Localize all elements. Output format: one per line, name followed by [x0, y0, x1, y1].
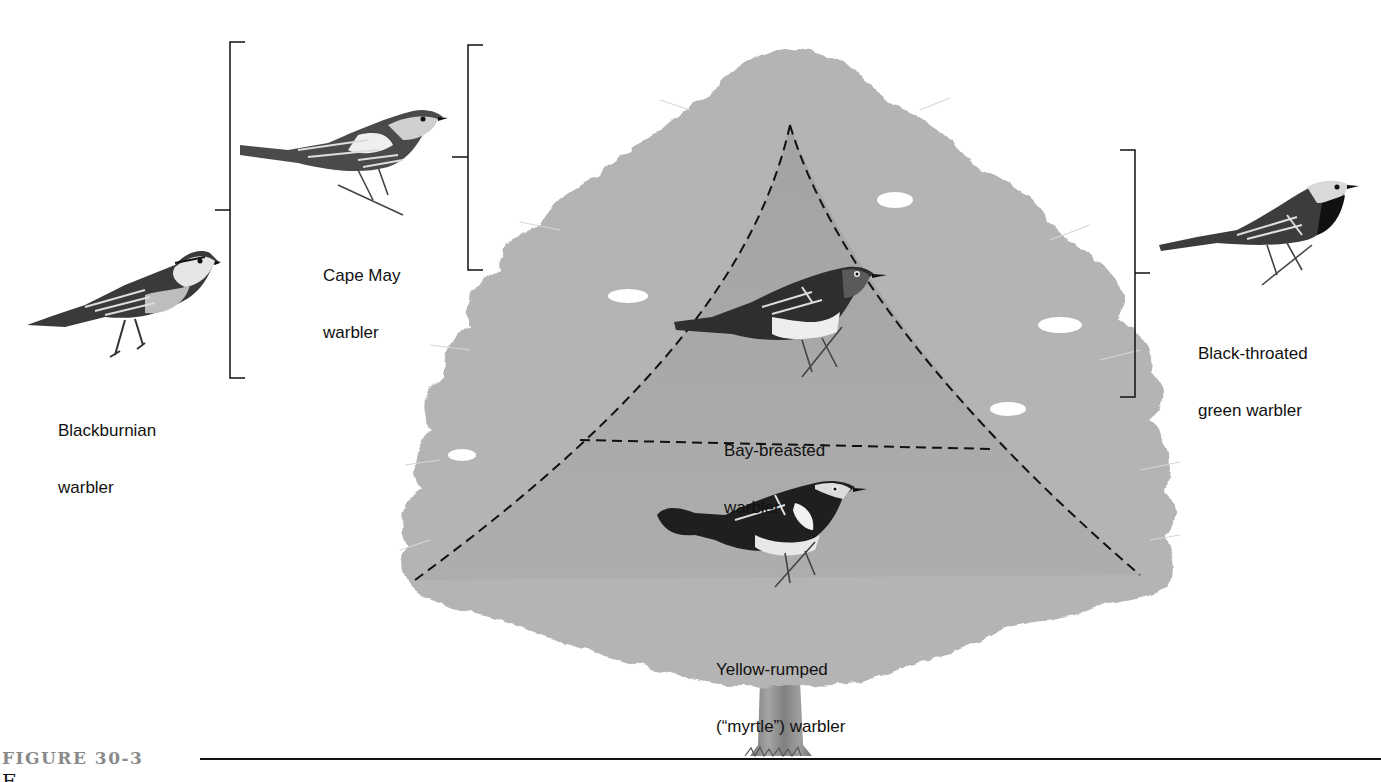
label-blackburnian-line1: Blackburnian [58, 421, 156, 440]
label-cape-may-line1: Cape May [323, 266, 400, 285]
label-yellow-rumped: Yellow-rumped (“myrtle”) warbler [716, 622, 845, 755]
figure-rule [200, 758, 1381, 760]
bird-blackburnian [27, 251, 221, 357]
label-bay-breasted: Bay-breasted warbler [724, 403, 825, 536]
label-black-throated-green: Black-throated green warbler [1198, 306, 1308, 439]
cape-may-bracket [452, 45, 483, 270]
label-bay-breasted-line2: warbler [724, 498, 825, 517]
label-cape-may: Cape May warbler [323, 228, 400, 361]
bird-cape-may [240, 110, 448, 215]
label-blackburnian: Blackburnian warbler [58, 383, 156, 516]
label-bay-breasted-line1: Bay-breasted [724, 441, 825, 460]
label-yellow-rumped-line1: Yellow-rumped [716, 660, 845, 679]
label-blackburnian-line2: warbler [58, 478, 156, 497]
figure-number: FIGURE 30-3 [2, 748, 143, 768]
blackburnian-bracket [215, 42, 245, 378]
label-black-throated-green-line1: Black-throated [1198, 344, 1308, 363]
warbler-niche-diagram [0, 0, 1381, 782]
label-black-throated-green-line2: green warbler [1198, 401, 1308, 420]
caption-fragment: F [2, 772, 16, 782]
label-yellow-rumped-line2: (“myrtle”) warbler [716, 717, 845, 736]
label-cape-may-line2: warbler [323, 323, 400, 342]
bird-black-throated-green [1159, 181, 1359, 285]
